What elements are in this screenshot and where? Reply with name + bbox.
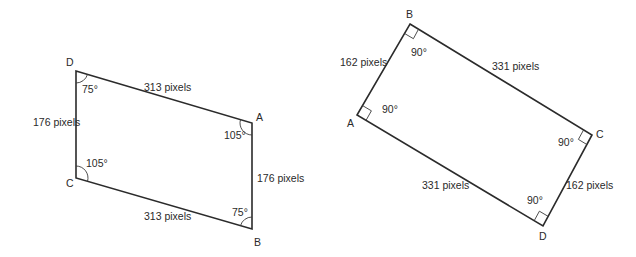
vertex-label-d: D: [539, 230, 547, 242]
parallelogram-outline: [76, 71, 252, 229]
angle-arc-d: [76, 74, 88, 83]
angle-arc-b: [241, 217, 253, 226]
angle-label-d: 75°: [82, 83, 98, 95]
vertex-label-d: D: [66, 56, 74, 68]
side-label-cd: 162 pixels: [566, 179, 613, 191]
angle-label-c: 90°: [558, 136, 574, 148]
vertex-label-a: A: [347, 117, 354, 129]
vertex-label-c: C: [596, 128, 604, 140]
right-angle-marker-c: [578, 130, 587, 145]
vertex-label-b: B: [254, 236, 261, 248]
side-label-da: 313 pixels: [144, 81, 191, 93]
side-label-ad: 331 pixels: [422, 179, 469, 191]
side-label-dc: 176 pixels: [33, 116, 80, 128]
diagram-canvas: D A B C 75° 105° 75° 105° 313 pixels 313…: [0, 0, 636, 257]
side-label-bc: 331 pixels: [492, 60, 539, 72]
vertex-label-c: C: [66, 177, 74, 189]
vertex-label-b: B: [406, 8, 413, 20]
angle-label-b: 75°: [232, 206, 248, 218]
angle-label-a: 90°: [382, 103, 398, 115]
angle-label-a: 105°: [224, 129, 246, 141]
rectangle-outline: [357, 24, 592, 226]
side-label-ab: 162 pixels: [340, 56, 387, 68]
angle-label-d: 90°: [527, 194, 543, 206]
vertex-label-a: A: [256, 111, 263, 123]
rectangle-figure: B A C D 90° 90° 90° 90° 162 pixels 331 p…: [340, 8, 613, 242]
angle-label-c: 105°: [86, 157, 108, 169]
side-label-ab: 176 pixels: [257, 172, 304, 184]
parallelogram-figure: D A B C 75° 105° 75° 105° 313 pixels 313…: [33, 56, 304, 248]
angle-label-b: 90°: [411, 46, 427, 58]
side-label-cb: 313 pixels: [144, 210, 191, 222]
